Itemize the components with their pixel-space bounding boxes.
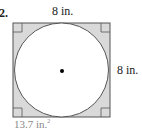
center-point bbox=[60, 69, 64, 73]
shaded-area-label: 13.7 in.2 bbox=[14, 118, 50, 130]
area-exponent: 2 bbox=[47, 118, 50, 124]
area-value: 13.7 in. bbox=[14, 118, 47, 130]
top-side-label: 8 in. bbox=[52, 4, 73, 19]
right-side-label: 8 in. bbox=[117, 63, 138, 78]
